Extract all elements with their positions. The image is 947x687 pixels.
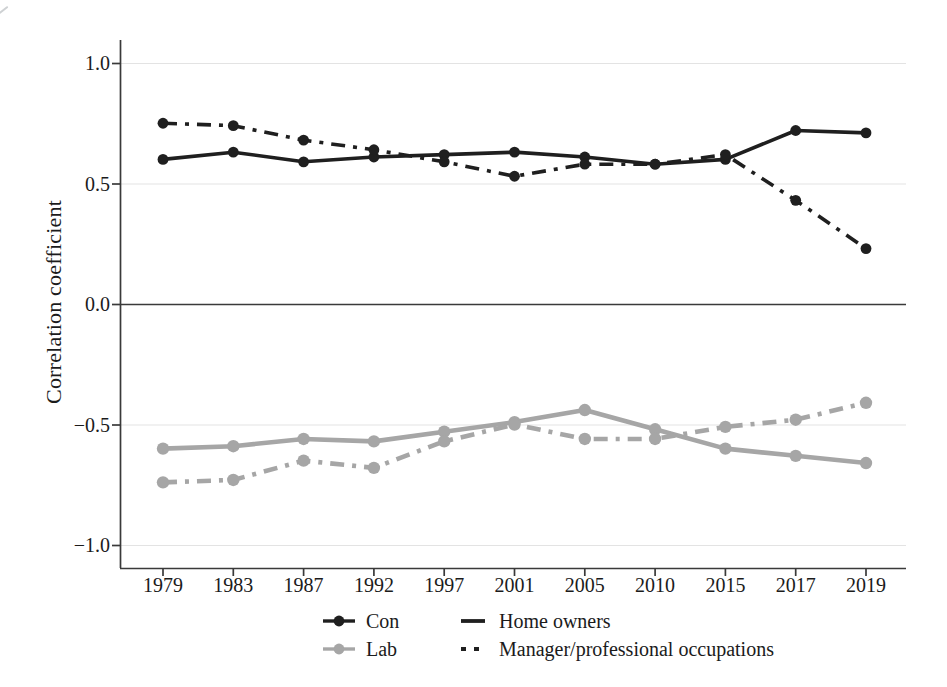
y-tick-label: 0.5 [0, 171, 110, 197]
data-point-marker [719, 421, 731, 433]
data-point-marker [861, 243, 872, 254]
x-tick-label: 1979 [123, 573, 203, 597]
data-point-marker [298, 135, 309, 146]
data-point-marker [228, 120, 239, 131]
data-point-marker [860, 397, 872, 409]
data-point-marker [720, 149, 731, 160]
data-point-marker [650, 159, 661, 170]
data-point-marker [368, 462, 380, 474]
data-point-marker [439, 156, 450, 167]
data-point-marker [157, 442, 169, 454]
data-point-marker [228, 147, 239, 158]
data-point-marker [297, 433, 309, 445]
y-tick-label: 0.0 [0, 291, 110, 317]
data-point-marker [719, 442, 731, 454]
data-point-marker [509, 171, 520, 182]
data-point-marker [227, 474, 239, 486]
data-point-marker [158, 118, 169, 129]
data-point-marker [297, 454, 309, 466]
x-tick-label: 1987 [264, 573, 344, 597]
data-point-marker [861, 127, 872, 138]
data-point-marker [790, 450, 802, 462]
data-point-marker [790, 195, 801, 206]
data-point-marker [298, 156, 309, 167]
data-point-marker [227, 440, 239, 452]
data-point-marker [509, 147, 520, 158]
data-point-marker [860, 457, 872, 469]
y-tick-label: −0.5 [0, 412, 110, 438]
x-tick-label: 1983 [193, 573, 273, 597]
data-point-marker [579, 159, 590, 170]
data-point-marker [438, 435, 450, 447]
data-point-marker [649, 433, 661, 445]
data-point-marker [579, 433, 591, 445]
data-point-marker [790, 413, 802, 425]
figure-page: Correlation coefficient 1.00.50.0−0.5−1.… [0, 0, 947, 687]
data-point-marker [579, 404, 591, 416]
data-point-marker [158, 154, 169, 165]
x-tick-label: 2005 [545, 573, 625, 597]
series-line-con-manager-professional [163, 123, 866, 248]
x-tick-label: 2015 [685, 573, 765, 597]
y-tick-label: 1.0 [0, 50, 110, 76]
y-tick-label: −1.0 [0, 532, 110, 558]
x-tick-label: 2017 [756, 573, 836, 597]
data-point-marker [508, 418, 520, 430]
data-point-marker [790, 125, 801, 136]
x-tick-label: 2010 [615, 573, 695, 597]
x-tick-label: 1992 [334, 573, 414, 597]
data-point-marker [157, 476, 169, 488]
x-tick-label: 2019 [826, 573, 906, 597]
data-point-marker [369, 144, 380, 155]
x-tick-label: 1997 [404, 573, 484, 597]
x-tick-label: 2001 [475, 573, 555, 597]
data-point-marker [368, 435, 380, 447]
